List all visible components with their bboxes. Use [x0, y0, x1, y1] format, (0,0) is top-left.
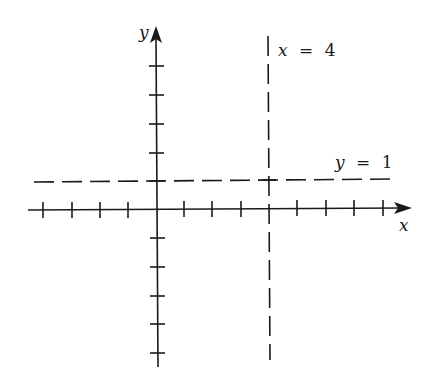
asymptote-y-1 [34, 179, 396, 182]
y-axis-label: y [138, 22, 149, 42]
coordinate-plane: x y x = 4 y = 1 [0, 0, 429, 392]
asymptote-label-x-4: x = 4 [278, 40, 335, 60]
y-axis [156, 38, 158, 367]
asymptote-x-4 [268, 36, 270, 360]
x-axis [28, 208, 402, 210]
x-axis-label: x [399, 215, 409, 235]
asymptote-label-y-1: y = 1 [334, 152, 393, 172]
